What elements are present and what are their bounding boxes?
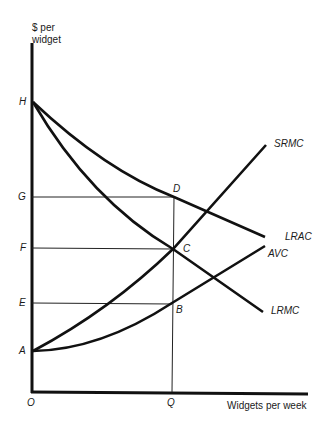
- curve-label-lrac: LRAC: [285, 231, 312, 242]
- guide-e-b: [32, 303, 172, 304]
- lrac-curve: [33, 102, 265, 237]
- y-axis-title: $ per widget: [32, 22, 61, 46]
- label-g: G: [18, 191, 26, 202]
- y-axis-title-line2: widget: [32, 34, 61, 46]
- point-c: C: [183, 243, 190, 254]
- label-e: E: [19, 297, 26, 308]
- curve-label-srmc: SRMC: [274, 138, 303, 149]
- curve-label-lrmc: LRMC: [271, 305, 299, 316]
- guide-f-c: [32, 248, 173, 249]
- label-f: F: [20, 242, 26, 253]
- cost-diagram: [0, 0, 328, 425]
- label-a: A: [19, 345, 26, 356]
- curve-label-avc: AVC: [268, 248, 288, 259]
- point-b: B: [176, 304, 183, 315]
- label-h: H: [19, 96, 26, 107]
- guide-q: [172, 197, 174, 392]
- label-q: Q: [167, 397, 175, 408]
- label-origin: O: [27, 397, 35, 408]
- y-axis-title-line1: $ per: [32, 22, 61, 34]
- x-axis: [31, 392, 308, 394]
- x-axis-title: Widgets per week: [227, 400, 306, 412]
- point-d: D: [173, 183, 180, 194]
- avc-curve: [33, 246, 265, 351]
